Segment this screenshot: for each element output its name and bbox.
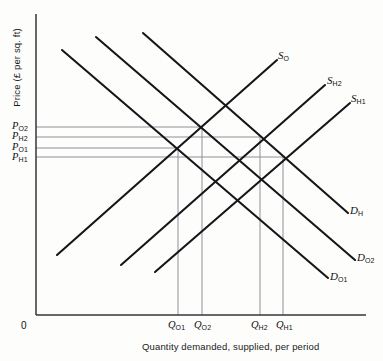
demand-curves: [62, 33, 355, 278]
curve-label-d-o1: DO1: [330, 270, 348, 282]
curve-label-base-s-o: S: [278, 49, 284, 61]
x-tick-base-qh2: Q: [251, 319, 259, 330]
x-tick-sub-qo1: O1: [176, 324, 186, 331]
curve-label-sub-s-h1: H1: [357, 98, 366, 105]
y-axis-title: Price (£ per sq. ft): [11, 8, 22, 128]
curve-label-base-d-h: D: [350, 204, 358, 216]
curve-label-sub-d-h: H: [358, 210, 363, 217]
supply-demand-chart-figure: Price (£ per sq. ft) Quantity demanded, …: [0, 0, 383, 361]
supply-curve-s-h2: [121, 85, 325, 265]
y-tick-sub-ph1: H1: [18, 156, 27, 163]
curve-label-sub-s-o: O: [284, 55, 290, 62]
supply-curves: [57, 60, 350, 272]
x-tick-label-qh1: QH1: [276, 319, 293, 330]
x-tick-sub-qo2: O2: [202, 324, 212, 331]
curve-label-base-s-h2: S: [327, 74, 333, 86]
chart-axes: [36, 14, 366, 315]
curve-label-sub-d-o2: O2: [365, 257, 375, 264]
curve-label-d-h: DH: [350, 204, 363, 216]
x-tick-base-qo1: Q: [168, 319, 176, 330]
x-tick-base-qh1: Q: [276, 319, 284, 330]
curve-label-d-o2: DO2: [357, 251, 375, 263]
curve-label-base-d-o2: D: [357, 251, 365, 263]
y-tick-label-ph2: PH2: [12, 130, 28, 141]
x-tick-label-qo2: QO2: [194, 319, 211, 330]
x-tick-sub-qh1: H1: [284, 324, 293, 331]
x-tick-sub-qh2: H2: [259, 324, 268, 331]
quantity-guide-lines: [178, 127, 283, 315]
origin-label: 0: [21, 320, 27, 331]
x-tick-base-qo2: Q: [194, 319, 202, 330]
curve-label-sub-d-o1: O1: [338, 276, 348, 283]
x-axis-title: Quantity demanded, supplied, per period: [142, 341, 320, 352]
curve-label-sub-s-h2: H2: [333, 80, 342, 87]
x-tick-label-qo1: QO1: [168, 319, 185, 330]
curve-label-base-d-o1: D: [330, 270, 338, 282]
curve-label-base-s-h1: S: [351, 92, 357, 104]
demand-curve-d-h: [143, 33, 348, 213]
curve-label-s-h1: SH1: [351, 92, 366, 104]
chart-canvas: [0, 0, 383, 361]
y-tick-label-ph1: PH1: [12, 151, 28, 162]
demand-curve-d-o1: [62, 50, 328, 278]
x-tick-label-qh2: QH2: [251, 319, 268, 330]
curve-label-s-h2: SH2: [327, 74, 342, 86]
price-guide-lines: [36, 127, 283, 157]
curve-label-s-o: SO: [278, 49, 289, 61]
